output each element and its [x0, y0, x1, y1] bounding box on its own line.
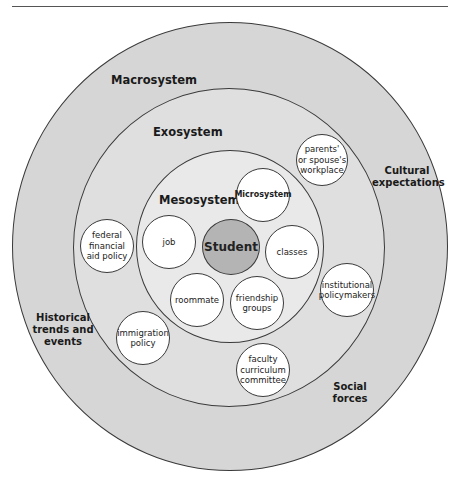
- top-rule: [12, 6, 448, 7]
- student-label: Student: [204, 242, 258, 253]
- classes-node: classes: [265, 225, 319, 279]
- friendship-groups-label: friendship groups: [236, 293, 278, 314]
- classes-label: classes: [277, 247, 308, 258]
- job-node: job: [142, 215, 196, 269]
- faculty-curriculum-committee-label: faculty curriculum committee: [240, 354, 286, 386]
- historical-trends-label: Historical trends and events: [28, 312, 98, 348]
- federal-financial-aid-policy-label: federal financial aid policy: [87, 230, 128, 262]
- faculty-curriculum-committee-node: faculty curriculum committee: [236, 343, 290, 397]
- parents-workplace-node: parents' or spouse's workplace: [296, 134, 348, 186]
- institutional-policymakers-node: institutional policymakers: [320, 263, 374, 317]
- macrosystem-label: Macrosystem: [111, 73, 197, 87]
- cultural-expectations-label: Cultural expectations: [372, 165, 442, 189]
- institutional-policymakers-label: institutional policymakers: [319, 280, 375, 301]
- microsystem-node: Microsystem: [236, 168, 290, 222]
- microsystem-label: Microsystem: [234, 190, 291, 201]
- social-forces-label: Social forces: [320, 381, 380, 405]
- federal-financial-aid-policy-node: federal financial aid policy: [80, 219, 134, 273]
- immigration-policy-node: immigration policy: [116, 311, 170, 365]
- job-label: job: [163, 237, 176, 248]
- mesosystem-label: Mesosystem: [159, 193, 239, 207]
- roommate-label: roommate: [175, 295, 219, 306]
- immigration-policy-label: immigration policy: [117, 328, 169, 349]
- roommate-node: roommate: [170, 273, 224, 327]
- parents-workplace-label: parents' or spouse's workplace: [298, 144, 346, 176]
- student-node: Student: [202, 219, 260, 275]
- exosystem-label: Exosystem: [153, 125, 223, 139]
- friendship-groups-node: friendship groups: [230, 276, 284, 330]
